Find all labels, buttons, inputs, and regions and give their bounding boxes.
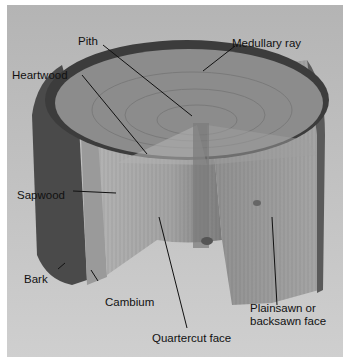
label-medullary-ray: Medullary ray — [232, 37, 301, 50]
label-plainsawn-face-line1: Plainsawn or — [250, 302, 316, 315]
label-quartercut-face: Quartercut face — [152, 332, 231, 345]
label-sapwood: Sapwood — [17, 189, 65, 202]
pith-band — [193, 123, 209, 248]
label-plainsawn-face-line2: backsawn face — [250, 315, 326, 328]
label-bark: Bark — [24, 273, 48, 286]
knot — [201, 237, 213, 245]
label-heartwood: Heartwood — [12, 69, 68, 82]
label-cambium: Cambium — [105, 296, 154, 309]
log-photo: Pith Medullary ray Heartwood Sapwood Bar… — [7, 5, 343, 357]
label-pith: Pith — [78, 35, 98, 48]
